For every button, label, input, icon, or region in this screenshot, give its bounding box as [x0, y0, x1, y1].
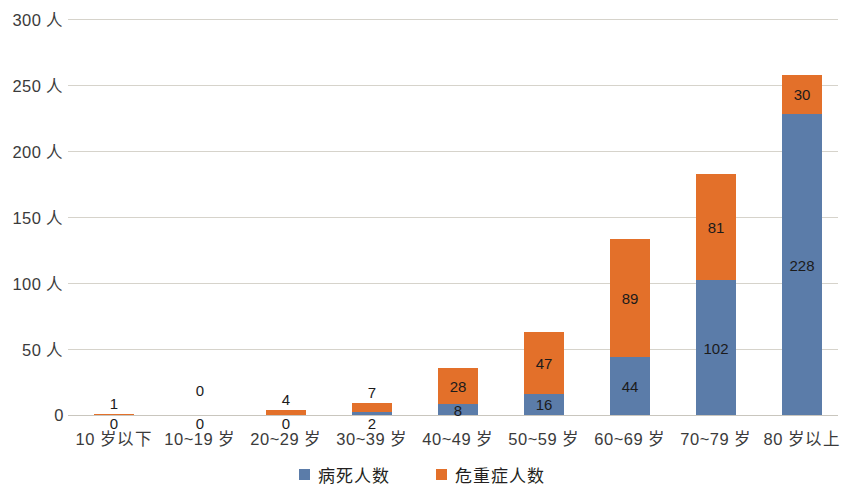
- bar-group-80-plus[interactable]: 30 228: [782, 75, 822, 415]
- x-axis-tick-80-plus: 80 岁以上: [742, 426, 844, 450]
- bar-group-under-10[interactable]: 1 0: [94, 414, 134, 415]
- y-axis-tick-50: 50 人: [0, 337, 64, 361]
- bar-value-deaths: 16: [524, 397, 564, 412]
- y-axis-tick-100: 100 人: [0, 271, 64, 295]
- bar-value-critical: 7: [352, 385, 392, 400]
- bar-value-critical: 0: [180, 383, 220, 398]
- bar-value-critical: 1: [94, 396, 134, 411]
- bar-segment-deaths[interactable]: 2: [352, 412, 392, 415]
- stacked-bar-chart: 300 人 250 人 200 人 150 人 100 人 50 人 0 1 0: [0, 0, 844, 494]
- bar-segment-deaths[interactable]: 44: [610, 357, 650, 415]
- bar-segment-deaths[interactable]: 16: [524, 394, 564, 415]
- legend-item-deaths[interactable]: 病死人数: [299, 462, 390, 487]
- y-axis-tick-250: 250 人: [0, 73, 64, 97]
- bar-group-20-29[interactable]: 4 0: [266, 410, 306, 415]
- bar-value-critical: 28: [438, 378, 478, 393]
- bar-value-critical: 81: [696, 219, 736, 234]
- y-axis-tick-300: 300 人: [0, 7, 64, 31]
- y-axis: 300 人 250 人 200 人 150 人 100 人 50 人 0: [0, 0, 64, 430]
- bar-segment-deaths[interactable]: 102: [696, 280, 736, 415]
- bar-value-critical: 30: [782, 87, 822, 102]
- x-axis: 10 岁以下 10~19 岁 20~29 岁 30~39 岁 40~49 岁 5…: [68, 426, 838, 456]
- chart-legend: 病死人数 危重症人数: [0, 462, 844, 487]
- bar-value-critical: 47: [524, 355, 564, 370]
- bar-value-critical: 4: [266, 392, 306, 407]
- bar-value-deaths: 44: [610, 378, 650, 393]
- legend-label-critical: 危重症人数: [455, 462, 545, 487]
- bar-group-50-59[interactable]: 47 16: [524, 332, 564, 415]
- plot-area: 1 0 0 0 4 0: [68, 10, 838, 424]
- legend-label-deaths: 病死人数: [318, 462, 390, 487]
- bar-group-60-69[interactable]: 89 44: [610, 239, 650, 415]
- bar-value-deaths: 8: [438, 402, 478, 417]
- bar-segment-critical[interactable]: 28: [438, 368, 478, 405]
- y-axis-tick-150: 150 人: [0, 205, 64, 229]
- bar-segment-deaths[interactable]: 228: [782, 114, 822, 415]
- bar-segment-deaths[interactable]: 8: [438, 404, 478, 415]
- y-axis-tick-0: 0: [0, 406, 64, 425]
- bar-value-deaths: 102: [696, 340, 736, 355]
- bar-segment-critical[interactable]: 7: [352, 403, 392, 412]
- bar-group-40-49[interactable]: 28 8: [438, 368, 478, 415]
- bar-segment-critical[interactable]: 47: [524, 332, 564, 394]
- bar-segment-critical[interactable]: 30: [782, 75, 822, 115]
- square-swatch-icon: [436, 469, 447, 480]
- bar-value-critical: 89: [610, 291, 650, 306]
- bar-group-30-39[interactable]: 7 2: [352, 403, 392, 415]
- bar-group-70-79[interactable]: 81 102: [696, 174, 736, 415]
- bar-value-deaths: 228: [782, 257, 822, 272]
- bar-series-container: 1 0 0 0 4 0: [68, 10, 838, 424]
- legend-item-critical[interactable]: 危重症人数: [436, 462, 545, 487]
- square-swatch-icon: [299, 469, 310, 480]
- bar-segment-critical[interactable]: 89: [610, 239, 650, 357]
- y-axis-tick-200: 200 人: [0, 139, 64, 163]
- bar-segment-critical[interactable]: 81: [696, 174, 736, 281]
